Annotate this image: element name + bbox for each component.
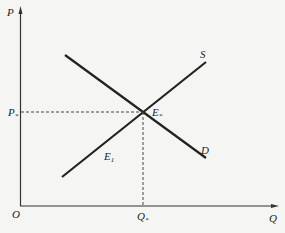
x-axis-label: Q [269, 212, 277, 224]
equilibrium-price-label: P* [7, 106, 19, 120]
origin-label: O [12, 208, 20, 220]
y-axis-arrow-icon [19, 6, 23, 14]
equilibrium-quantity-label: Q* [137, 210, 149, 224]
y-axis-label: P [6, 6, 14, 18]
x-axis-arrow-icon [271, 204, 279, 208]
equilibrium-label: E* [151, 106, 163, 120]
supply-curve [62, 62, 206, 177]
supply-demand-diagram: P Q O S D E* P* Q* E1 [0, 0, 285, 233]
diagram-canvas: P Q O S D E* P* Q* E1 [0, 0, 285, 233]
demand-curve [65, 55, 206, 158]
supply-label: S [200, 48, 206, 60]
demand-label: D [200, 144, 209, 156]
e1-label: E1 [103, 150, 114, 164]
